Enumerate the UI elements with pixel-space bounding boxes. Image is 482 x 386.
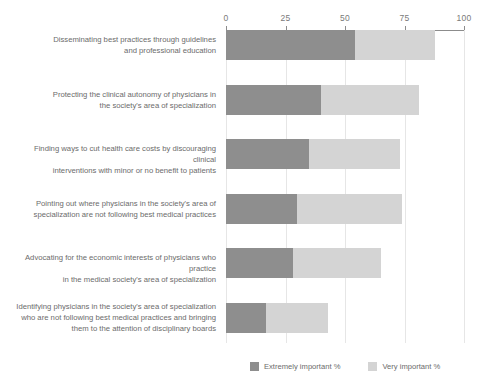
category-label: Identifying physicians in the society's … <box>16 301 216 334</box>
chart-row: Advocating for the economic interests of… <box>0 248 482 302</box>
chart-legend: Extremely important %Very important % <box>250 362 440 371</box>
bar-segment-extremely-important <box>226 85 321 115</box>
category-label: Advocating for the economic interests of… <box>16 252 216 285</box>
bar-segment-very-important <box>321 85 419 115</box>
category-label-line: Finding ways to cut health care costs by… <box>16 143 216 165</box>
stacked-bar-chart: 0255075100 Disseminating best practices … <box>0 0 482 386</box>
bar-segment-very-important <box>266 303 328 333</box>
chart-row: Disseminating best practices through gui… <box>0 30 482 84</box>
category-label-line: in the medical society's area of special… <box>16 274 216 285</box>
bar-segment-very-important <box>297 194 402 224</box>
category-label-line: and professional education <box>16 45 216 56</box>
chart-row: Finding ways to cut health care costs by… <box>0 139 482 193</box>
stacked-bar <box>226 85 419 115</box>
category-label-line: Protecting the clinical autonomy of phys… <box>16 89 216 100</box>
bar-segment-extremely-important <box>226 194 297 224</box>
legend-label: Very important % <box>382 362 440 371</box>
category-label-line: Advocating for the economic interests of… <box>16 252 216 274</box>
category-label-line: who are not following best medical pract… <box>16 312 216 323</box>
x-tick-label: 0 <box>224 13 229 23</box>
legend-label: Extremely important % <box>264 362 340 371</box>
bar-segment-extremely-important <box>226 139 309 169</box>
stacked-bar <box>226 139 400 169</box>
category-label-line: Pointing out where physicians in the soc… <box>16 198 216 209</box>
legend-item[interactable]: Extremely important % <box>250 362 340 371</box>
category-label-line: interventions with minor or no benefit t… <box>16 165 216 176</box>
bar-segment-extremely-important <box>226 248 293 278</box>
chart-row: Pointing out where physicians in the soc… <box>0 194 482 248</box>
x-tick-label: 75 <box>400 13 410 23</box>
category-label-line: Identifying physicians in the society's … <box>16 301 216 312</box>
legend-swatch-icon <box>368 362 377 371</box>
x-tick-label: 50 <box>340 13 350 23</box>
bar-segment-very-important <box>309 139 399 169</box>
legend-item[interactable]: Very important % <box>368 362 440 371</box>
stacked-bar <box>226 303 328 333</box>
x-tick-label: 25 <box>281 13 291 23</box>
chart-row: Identifying physicians in the society's … <box>0 303 482 357</box>
chart-row: Protecting the clinical autonomy of phys… <box>0 85 482 139</box>
category-label-line: Disseminating best practices through gui… <box>16 34 216 45</box>
stacked-bar <box>226 194 402 224</box>
category-label: Protecting the clinical autonomy of phys… <box>16 89 216 111</box>
stacked-bar <box>226 248 381 278</box>
bar-segment-extremely-important <box>226 303 266 333</box>
category-label: Disseminating best practices through gui… <box>16 34 216 56</box>
stacked-bar <box>226 30 435 60</box>
legend-swatch-icon <box>250 362 259 371</box>
category-label-line: the society's area of specialization <box>16 100 216 111</box>
bar-segment-very-important <box>355 30 436 60</box>
category-label: Pointing out where physicians in the soc… <box>16 198 216 220</box>
bar-segment-very-important <box>293 248 381 278</box>
chart-rows: Disseminating best practices through gui… <box>0 30 482 343</box>
category-label-line: specialization are not following best me… <box>16 209 216 220</box>
category-label-line: them to the attention of disciplinary bo… <box>16 323 216 334</box>
category-label: Finding ways to cut health care costs by… <box>16 143 216 176</box>
x-tick-label: 100 <box>457 13 472 23</box>
bar-segment-extremely-important <box>226 30 355 60</box>
